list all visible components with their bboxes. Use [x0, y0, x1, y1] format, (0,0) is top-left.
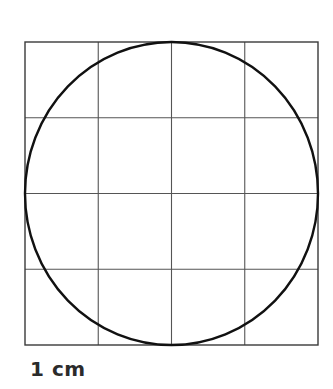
scale-label: 1 cm: [30, 357, 86, 381]
geometry-diagram-svg: [0, 0, 333, 389]
figure-root: 1 cm: [0, 0, 333, 389]
diagram-background: [0, 0, 333, 389]
